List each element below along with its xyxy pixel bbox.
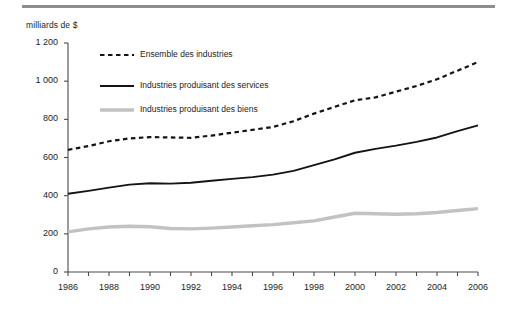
series-line-3 <box>68 209 478 232</box>
y-axis-tick-label: 800 <box>16 113 58 123</box>
legend-label-1: Ensemble des industries <box>140 49 233 59</box>
y-axis-tick-label: 400 <box>16 190 58 200</box>
x-axis-tick-label: 2006 <box>458 282 498 292</box>
x-axis-tick-label: 1988 <box>89 282 129 292</box>
legend-label-3: Industries produisant des biens <box>140 104 258 114</box>
y-axis-tick-label: 1 200 <box>16 37 58 47</box>
x-axis-tick-label: 1998 <box>294 282 334 292</box>
x-axis-tick-label: 1990 <box>130 282 170 292</box>
x-axis-tick-label: 1986 <box>48 282 88 292</box>
x-axis-tick-label: 2000 <box>335 282 375 292</box>
series-line-2 <box>68 125 478 193</box>
y-axis-tick-label: 1 000 <box>16 75 58 85</box>
x-axis-tick-label: 1994 <box>212 282 252 292</box>
x-axis-tick-label: 1996 <box>253 282 293 292</box>
y-axis-tick-label: 600 <box>16 152 58 162</box>
legend-label-2: Industries produisant des services <box>140 80 269 90</box>
y-axis-tick-label: 200 <box>16 228 58 238</box>
chart-canvas <box>0 0 506 313</box>
x-axis-tick-label: 1992 <box>171 282 211 292</box>
x-axis-tick-label: 2004 <box>417 282 457 292</box>
y-axis-tick-label: 0 <box>16 266 58 276</box>
series-line-1 <box>68 62 478 150</box>
x-axis-tick-label: 2002 <box>376 282 416 292</box>
